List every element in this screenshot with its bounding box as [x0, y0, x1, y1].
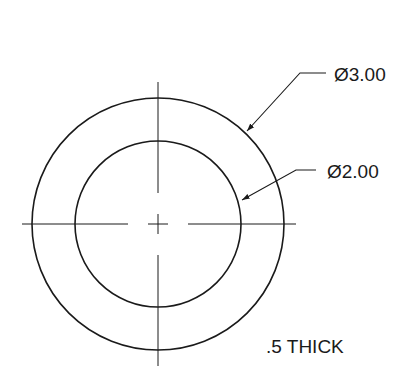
- inner-diameter-label: Ø2.00: [327, 161, 379, 182]
- inner-diameter-leader: [242, 170, 316, 200]
- thickness-note: .5 THICK: [266, 336, 344, 357]
- outer-diameter-leader: [247, 73, 326, 131]
- outer-diameter-label: Ø3.00: [334, 64, 386, 85]
- washer-drawing: Ø3.00 Ø2.00 .5 THICK: [0, 0, 420, 382]
